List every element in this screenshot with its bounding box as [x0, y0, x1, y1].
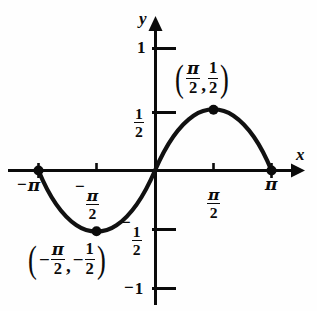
- fraction-denominator: 2: [135, 123, 143, 140]
- fraction-denominator: 2: [86, 260, 94, 278]
- fraction-denominator: 2: [133, 241, 141, 258]
- fraction-numerator: π: [86, 188, 99, 206]
- minus-sign: −: [124, 279, 134, 296]
- annotation-minimum-point: ( − π 2 , − 1 2 ): [26, 241, 108, 277]
- x-axis-arrowhead: [291, 164, 305, 178]
- minus-sign: −: [39, 250, 50, 269]
- fraction-numerator: π: [207, 187, 220, 205]
- fraction-numerator: π: [186, 60, 200, 79]
- annotation-maximum-point: ( π 2 , 1 2 ): [173, 60, 231, 96]
- annotation-y-fraction: 1 2: [208, 60, 218, 96]
- fraction-numerator: π: [51, 241, 65, 260]
- annotation-y-fraction: 1 2: [85, 241, 95, 277]
- x-tick-label-minus-pi-over-2: − π 2: [75, 178, 99, 222]
- y-tick-label-minus-one-half: − 1 2: [121, 214, 142, 258]
- sine-graph-figure: y x 1 1 2 − 1 2 −1 −π − π 2 π 2 π: [0, 0, 317, 311]
- fraction-one-half: 1 2: [132, 224, 142, 258]
- point-minus-pi: [34, 166, 44, 176]
- fraction-numerator: 1: [85, 241, 95, 260]
- y-tick-label-1: 1: [137, 39, 146, 56]
- y-tick-label-1-value: 1: [137, 38, 146, 57]
- fraction-numerator: 1: [208, 60, 218, 79]
- fraction-pi-over-2: π 2: [207, 187, 220, 221]
- minus-sign: −: [73, 250, 84, 269]
- pi-symbol: π: [265, 174, 277, 194]
- y-axis-label: y: [139, 10, 147, 27]
- y-axis-arrowhead: [149, 16, 163, 31]
- open-paren: (: [175, 62, 184, 94]
- y-tick-label-minus-1: −1: [124, 279, 143, 297]
- y-tick-label-minus-1-value: 1: [135, 279, 144, 298]
- fraction-one-half: 1 2: [134, 106, 144, 140]
- minus-sign: −: [121, 214, 131, 231]
- fraction-denominator: 2: [189, 79, 197, 97]
- y-tick-label-one-half: 1 2: [134, 97, 144, 140]
- minus-sign: −: [17, 176, 27, 193]
- x-tick-label-pi-over-2: π 2: [207, 178, 220, 221]
- fraction-denominator: 2: [209, 79, 217, 97]
- open-paren: (: [28, 243, 37, 275]
- x-tick-label-minus-pi: −π: [17, 176, 40, 194]
- close-paren: ): [97, 243, 106, 275]
- x-axis-label: x: [296, 146, 305, 163]
- minus-sign: −: [75, 178, 85, 195]
- fraction-denominator: 2: [210, 204, 218, 221]
- fraction-denominator: 2: [54, 260, 62, 278]
- annotation-x-fraction: π 2: [51, 241, 65, 277]
- pi-symbol: π: [28, 175, 40, 195]
- annotation-comma: ,: [201, 75, 206, 96]
- fraction-numerator: 1: [134, 106, 144, 124]
- point-maximum: [209, 105, 219, 115]
- point-minimum: [92, 226, 102, 236]
- x-tick-label-pi: π: [265, 176, 277, 193]
- close-paren: ): [220, 62, 229, 94]
- fraction-denominator: 2: [89, 205, 97, 222]
- annotation-comma: ,: [66, 256, 71, 277]
- fraction-numerator: 1: [132, 224, 142, 242]
- annotation-x-fraction: π 2: [186, 60, 200, 96]
- fraction-pi-over-2: π 2: [86, 188, 99, 222]
